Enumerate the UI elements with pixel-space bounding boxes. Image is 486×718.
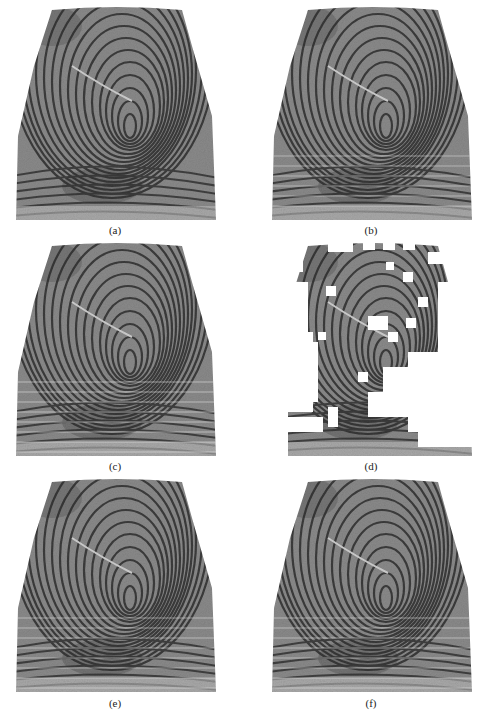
fingerprint-panel-d — [268, 242, 474, 458]
fingerprint-image-b — [268, 6, 474, 222]
caption-c: (c) — [85, 460, 145, 472]
fingerprint-panel-c — [12, 242, 218, 458]
caption-f: (f) — [341, 697, 401, 709]
fingerprint-panel-e — [12, 478, 218, 694]
fingerprint-image-e — [12, 478, 218, 694]
fingerprint-panel-f — [268, 478, 474, 694]
fingerprint-image-a — [12, 6, 218, 222]
fingerprint-image-d — [268, 242, 474, 458]
caption-a: (a) — [85, 224, 145, 236]
fingerprint-panel-b — [268, 6, 474, 222]
fingerprint-image-c — [12, 242, 218, 458]
fingerprint-panel-a — [12, 6, 218, 222]
caption-b: (b) — [341, 224, 401, 236]
caption-e: (e) — [85, 697, 145, 709]
caption-d: (d) — [341, 460, 401, 472]
fingerprint-image-f — [268, 478, 474, 694]
